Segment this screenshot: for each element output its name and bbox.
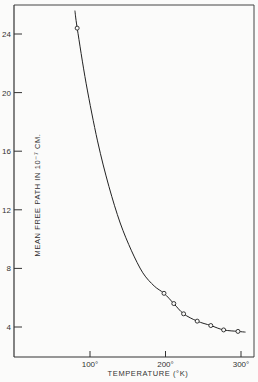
data-point-marker [75,26,79,30]
y-axis-label: MEAN FREE PATH IN 10⁻⁷ CM. [33,134,42,257]
y-tick-label: 8 [7,264,12,273]
mean-free-path-chart: 4812162024 100°200°300° MEAN FREE PATH I… [0,0,258,382]
data-point-marker [236,329,240,333]
y-tick-label: 24 [2,30,11,39]
data-point-marker [209,324,213,328]
y-tick-label: 12 [2,206,11,215]
data-point-marker [195,319,199,323]
data-points [75,26,240,333]
x-tick-label: 300° [233,360,250,369]
x-axis-ticks: 100°200°300° [82,351,250,369]
x-tick-label: 200° [157,360,174,369]
data-point-marker [172,302,176,306]
x-tick-label: 100° [82,360,99,369]
y-tick-label: 20 [2,89,11,98]
data-point-marker [162,291,166,295]
y-tick-label: 4 [7,323,12,332]
plot-frame [14,5,254,357]
y-axis-ticks: 4812162024 [2,30,22,332]
y-tick-label: 16 [2,147,11,156]
data-point-marker [182,312,186,316]
x-axis-label: TEMPERATURE (°K) [108,369,189,378]
data-point-marker [222,328,226,332]
fitted-curve [75,11,246,333]
